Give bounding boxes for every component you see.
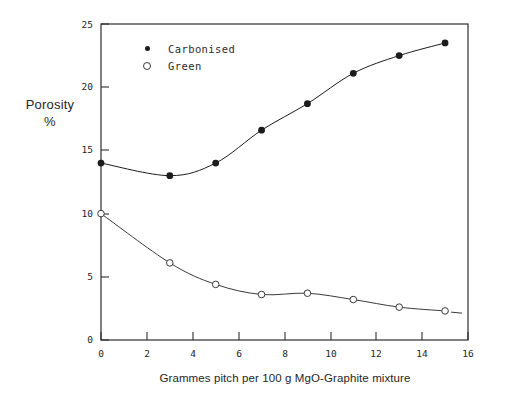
legend-item-green: Green	[136, 57, 235, 74]
data-point-open	[350, 296, 357, 303]
data-point-open	[212, 281, 219, 288]
y-axis-title-line2: %	[8, 113, 92, 130]
open-circle-icon	[136, 62, 158, 70]
legend-label: Green	[158, 60, 202, 72]
legend-item-carbonised: Carbonised	[136, 40, 235, 57]
series-line	[101, 214, 445, 311]
porosity-chart-figure: 0 5 10 15 20 25 0 2 4 6 8 10 12 14 16 Po…	[0, 0, 510, 411]
data-point-filled	[166, 172, 173, 179]
data-point-filled	[98, 160, 105, 167]
data-point-filled	[212, 160, 219, 167]
y-tick-label: 5	[87, 271, 93, 282]
legend-label: Carbonised	[158, 43, 235, 55]
y-tick-label: 0	[87, 334, 93, 345]
data-point-open	[98, 210, 105, 217]
x-tick-label: 6	[236, 348, 242, 359]
data-point-filled	[350, 70, 357, 77]
x-tick-label: 4	[190, 348, 196, 359]
x-tick-label: 16	[462, 348, 474, 359]
data-point-filled	[396, 52, 403, 59]
data-point-open	[396, 304, 403, 311]
data-point-open	[304, 290, 311, 297]
x-tick-label: 10	[325, 348, 337, 359]
x-tick-label: 0	[98, 348, 104, 359]
y-tick-labels: 0 5 10 15 20 25	[82, 19, 94, 345]
filled-circle-icon	[136, 46, 158, 51]
x-axis-ticks	[101, 332, 468, 340]
y-tick-label: 20	[82, 81, 94, 92]
x-tick-label: 12	[370, 348, 381, 359]
x-tick-label: 2	[144, 348, 150, 359]
y-tick-label: 15	[82, 144, 93, 155]
data-point-filled	[442, 40, 449, 47]
y-axis-title-line1: Porosity	[26, 97, 75, 112]
x-axis-title: Grammes pitch per 100 g MgO-Graphite mix…	[120, 372, 450, 384]
data-point-filled	[258, 127, 265, 134]
x-tick-label: 8	[282, 348, 288, 359]
y-axis-title: Porosity %	[8, 96, 92, 130]
y-axis-ticks	[101, 24, 109, 340]
green-trailing-dash	[451, 312, 462, 313]
chart-canvas: 0 5 10 15 20 25 0 2 4 6 8 10 12 14 16	[0, 0, 510, 411]
data-series-layer	[98, 40, 449, 315]
y-tick-label: 25	[82, 19, 93, 30]
data-point-filled	[304, 100, 311, 107]
series-green	[98, 210, 449, 314]
data-point-open	[167, 260, 174, 267]
x-tick-label: 14	[416, 348, 428, 359]
chart-legend: Carbonised Green	[136, 40, 235, 74]
x-tick-labels: 0 2 4 6 8 10 12 14 16	[98, 348, 474, 359]
data-point-open	[258, 291, 265, 298]
data-point-open	[442, 308, 449, 315]
y-tick-label: 10	[82, 208, 94, 219]
